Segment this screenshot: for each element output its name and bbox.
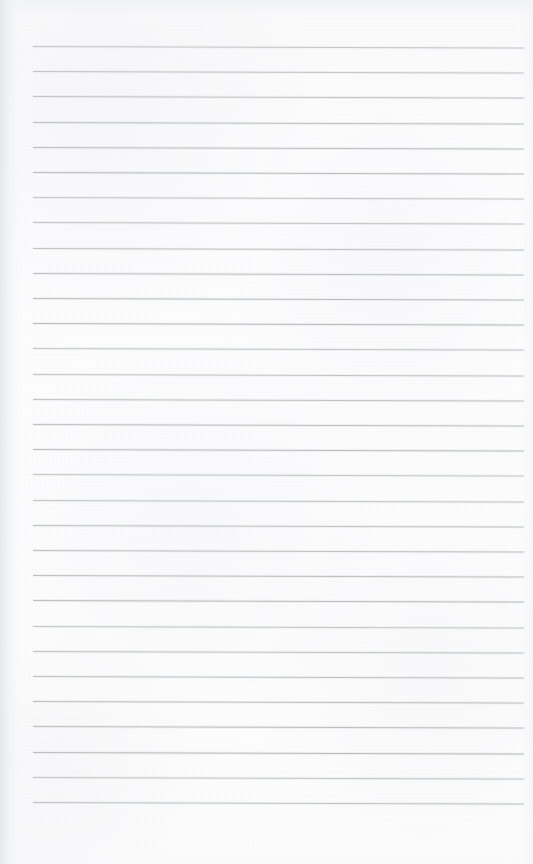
paper-background	[0, 0, 533, 864]
scanned-page	[0, 0, 533, 864]
